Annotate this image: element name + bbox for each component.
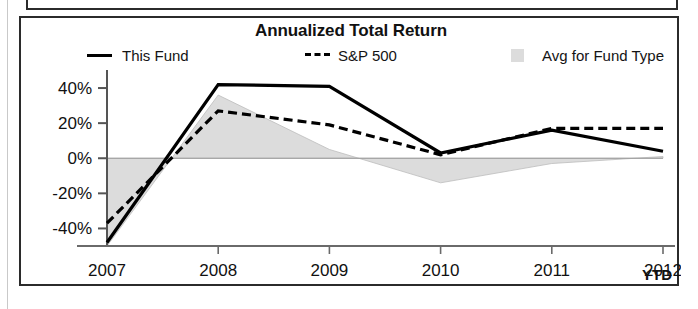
legend-label-this-fund: This Fund [122,47,189,64]
y-axis-tick-label: -40% [52,219,92,238]
x-axis-ytd-label: YTD [642,266,672,283]
legend-item-avg-for-fund-type[interactable]: Avg for Fund Type [511,44,664,66]
chart-plot-svg: 40%20%0%-20%-40%200720082009201020112012 [21,66,681,288]
scan-edge-artifact [7,0,8,309]
legend-item-this-fund[interactable]: This Fund [87,44,189,66]
x-axis-tick-label: 2009 [310,261,348,280]
line-series-sp500 [107,111,663,223]
y-axis-tick-label: 20% [58,114,92,133]
chart-panel: Annualized Total Return This Fund S&P 50… [19,16,679,286]
dashed-line-swatch-icon [305,53,330,56]
legend-label-sp500: S&P 500 [338,47,397,64]
legend-label-avg-for-fund-type: Avg for Fund Type [542,47,664,64]
x-axis-tick-label: 2010 [422,261,460,280]
y-axis-tick-label: 40% [58,79,92,98]
y-axis-tick-label: 0% [67,149,92,168]
chart-title: Annualized Total Return [21,21,681,41]
area-series-avg-for-fund-type [107,95,663,246]
plot-area: 40%20%0%-20%-40%200720082009201020112012 [21,66,681,286]
x-axis-tick-label: 2007 [88,261,126,280]
chart-legend: This Fund S&P 500 Avg for Fund Type [21,44,681,66]
x-axis-tick-label: 2008 [199,261,237,280]
x-axis-tick-label: 2011 [534,261,571,280]
solid-line-swatch-icon [87,54,112,57]
chart-screenshot: Annualized Total Return This Fund S&P 50… [0,0,698,309]
gray-area-swatch-icon [511,49,524,62]
panel-above-chart [26,0,678,10]
legend-item-sp500[interactable]: S&P 500 [305,44,397,66]
y-axis-tick-label: -20% [52,184,92,203]
